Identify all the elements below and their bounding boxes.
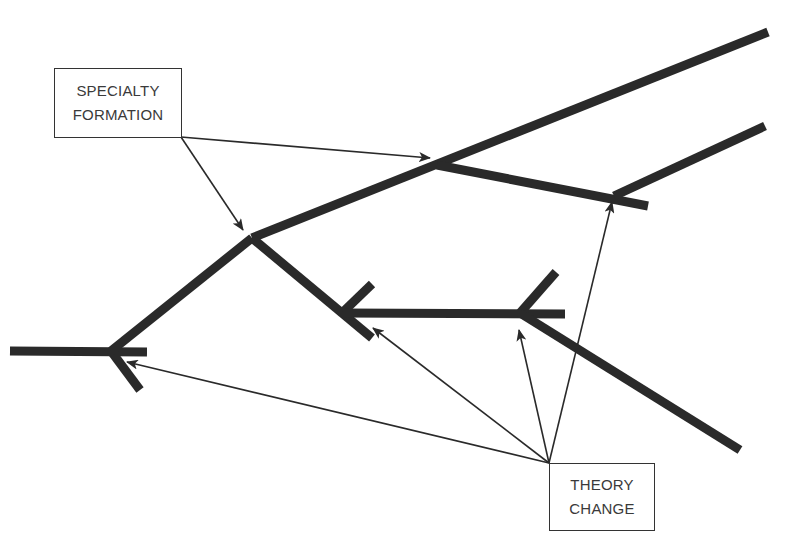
- branch-middle-right-up: [520, 272, 556, 313]
- branch-trunk-to-node-b: [111, 238, 252, 351]
- specialty-formation-line2: FORMATION: [73, 103, 164, 127]
- branch-upper-main: [252, 32, 768, 238]
- branch-upper-side-fork: [614, 126, 765, 196]
- theory-change-line2: CHANGE: [569, 497, 634, 521]
- arrow-specialty-formation-0: [181, 137, 430, 158]
- arrow-specialty-formation-1: [181, 137, 243, 230]
- theory-change-line1: THEORY: [570, 473, 633, 497]
- branch-middle-up-stub: [343, 284, 372, 312]
- branch-middle-horizontal: [343, 313, 565, 314]
- branch-middle-down: [252, 238, 372, 338]
- branch-trunk: [10, 351, 147, 352]
- branch-middle-right-down: [520, 313, 740, 450]
- specialty-formation-line1: SPECIALTY: [76, 79, 159, 103]
- theory-change-label: THEORY CHANGE: [549, 463, 655, 531]
- specialty-formation-label: SPECIALTY FORMATION: [54, 68, 182, 138]
- branch-trunk-lower-stub: [111, 351, 140, 390]
- arrow-theory-change-2: [127, 362, 549, 463]
